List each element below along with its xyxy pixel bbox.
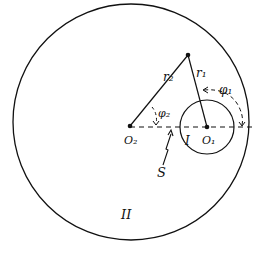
angle-phi2-arrowhead-icon <box>153 121 159 125</box>
label-phi1: φ₁ <box>219 83 232 97</box>
label-r1: r₁ <box>196 66 207 80</box>
diagram-canvas: r₂ r₁ φ₁ φ₂ O₂ O₁ I S II <box>0 0 263 254</box>
label-o2: O₂ <box>124 134 137 147</box>
label-source-s: S <box>157 165 166 180</box>
point-o1-dot <box>205 125 210 130</box>
label-o1: O₁ <box>202 134 215 147</box>
point-o2-dot <box>128 124 133 129</box>
field-point-dot <box>186 53 191 58</box>
label-r2: r₂ <box>163 70 174 84</box>
source-s-arrow <box>163 134 171 165</box>
label-region-ii: II <box>120 207 132 222</box>
label-region-i: I <box>184 134 190 148</box>
outer-circle-region-ii <box>13 4 249 240</box>
label-phi2: φ₂ <box>158 107 170 120</box>
